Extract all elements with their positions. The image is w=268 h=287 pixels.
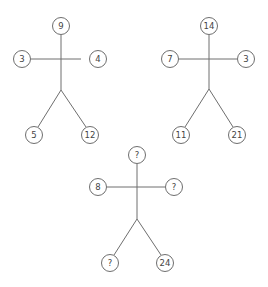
figure-1-right-foot: 12 bbox=[81, 126, 99, 144]
figure-1-head: 9 bbox=[52, 17, 70, 35]
figure-3-head: ? bbox=[128, 146, 146, 164]
figure-2-left-hand: 7 bbox=[161, 50, 179, 68]
figure-1-left-foot: 5 bbox=[25, 126, 43, 144]
figure-2-head: 14 bbox=[200, 17, 218, 35]
figure-1-left-hand: 3 bbox=[13, 50, 31, 68]
figure-3-right-hand: ? bbox=[165, 178, 183, 196]
figure-1-right-hand: 4 bbox=[89, 50, 107, 68]
figure-3-left-hand: 8 bbox=[89, 178, 107, 196]
figure-3-left-foot: ? bbox=[101, 254, 119, 272]
figure-2-right-foot: 21 bbox=[228, 126, 246, 144]
figure-3-right-foot: 24 bbox=[156, 254, 174, 272]
number-figures-puzzle: 9 3 4 5 12 14 7 3 11 21 ? 8 ? ? 24 bbox=[0, 0, 268, 287]
figure-2-right-hand: 3 bbox=[237, 50, 255, 68]
figure-2-left-foot: 11 bbox=[172, 126, 190, 144]
stick-figure-lines bbox=[0, 0, 268, 287]
